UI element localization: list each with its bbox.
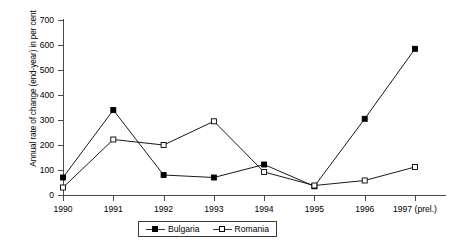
- data-point-marker: [161, 173, 166, 178]
- legend-item-label: Bulgaria: [168, 224, 200, 234]
- data-point-marker: [262, 162, 267, 167]
- data-point-marker: [262, 170, 267, 175]
- filled-square-icon: [146, 225, 165, 234]
- data-point-marker: [211, 175, 216, 180]
- data-point-marker: [312, 183, 317, 188]
- data-point-marker: [161, 143, 166, 148]
- data-point-marker: [413, 165, 418, 170]
- line-chart: Annual rate of change (end-year) in per …: [0, 0, 465, 249]
- data-point-marker: [211, 119, 216, 124]
- hollow-square-icon: [213, 225, 232, 234]
- data-point-marker: [61, 185, 66, 190]
- legend-item-romania: Romania: [213, 224, 269, 234]
- legend-item-label: Romania: [235, 224, 269, 234]
- data-point-marker: [111, 108, 116, 113]
- data-point-marker: [362, 178, 367, 183]
- series-layer: [0, 0, 465, 249]
- data-point-marker: [61, 175, 66, 180]
- data-point-marker: [111, 137, 116, 142]
- chart-legend: BulgariaRomania: [138, 221, 277, 237]
- data-point-marker: [362, 116, 367, 121]
- data-point-marker: [413, 46, 418, 51]
- legend-item-bulgaria: Bulgaria: [146, 224, 200, 234]
